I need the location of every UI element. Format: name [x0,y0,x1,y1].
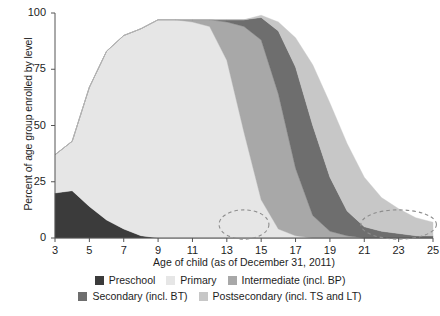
legend-swatch-icon [228,276,237,285]
plot-area [0,0,440,316]
legend-item-preschool[interactable]: Preschool [95,275,156,286]
x-tick-label-5: 5 [77,244,101,256]
x-tick-label-7: 7 [112,244,136,256]
legend-label: Postsecondary (incl. TS and LT) [213,291,362,302]
x-axis-title: Age of child (as of December 31, 2011) [55,256,433,268]
x-tick-label-15: 15 [249,244,273,256]
x-tick-label-17: 17 [284,244,308,256]
x-tick-label-9: 9 [146,244,170,256]
legend-label: Intermediate (incl. BP) [242,275,346,286]
chart-figure: Percent of age group enrolled by level 0… [0,0,440,316]
x-tick-label-23: 23 [387,244,411,256]
legend-swatch-icon [95,276,104,285]
legend-row-2: Secondary (incl. BT)Postsecondary (incl.… [0,288,440,304]
legend-row-1: PreschoolPrimaryIntermediate (incl. BP) [0,272,440,288]
legend-label: Preschool [109,275,156,286]
y-tick-label-50: 50 [16,119,46,131]
x-tick-label-13: 13 [215,244,239,256]
x-tick-label-3: 3 [43,244,67,256]
legend-label: Secondary (incl. BT) [92,291,187,302]
legend-swatch-icon [199,292,208,301]
legend-label: Primary [180,275,216,286]
y-tick-label-75: 75 [16,62,46,74]
stacked-area-plot [0,0,440,316]
y-tick-label-0: 0 [16,231,46,243]
y-tick-label-25: 25 [16,175,46,187]
legend-swatch-icon [166,276,175,285]
x-tick-label-11: 11 [180,244,204,256]
x-tick-label-21: 21 [352,244,376,256]
x-tick-label-19: 19 [318,244,342,256]
legend-swatch-icon [78,292,87,301]
y-tick-label-100: 100 [16,6,46,18]
legend-item-secondary[interactable]: Secondary (incl. BT) [78,291,187,302]
chart-legend: PreschoolPrimaryIntermediate (incl. BP)S… [0,272,440,304]
legend-item-primary[interactable]: Primary [166,275,216,286]
legend-item-postsecondary[interactable]: Postsecondary (incl. TS and LT) [199,291,362,302]
legend-item-intermediate[interactable]: Intermediate (incl. BP) [228,275,346,286]
x-tick-label-25: 25 [421,244,440,256]
